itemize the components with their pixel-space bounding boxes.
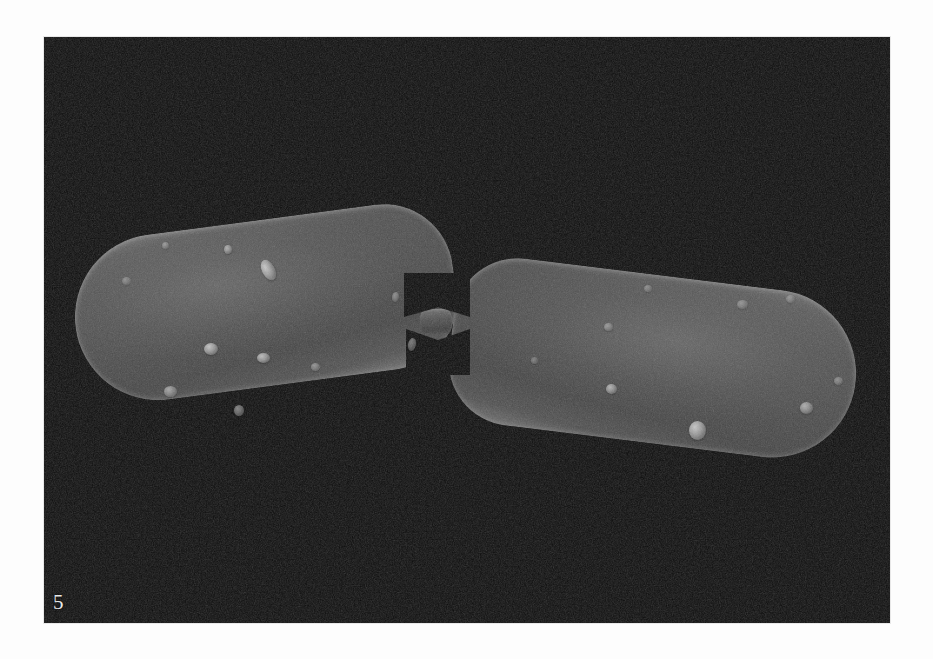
- surface-bleb: [122, 277, 131, 285]
- surface-bleb: [834, 377, 843, 385]
- surface-bleb: [531, 357, 538, 364]
- surface-bleb: [257, 353, 270, 363]
- surface-bleb: [234, 405, 244, 416]
- surface-bleb: [800, 402, 813, 414]
- surface-bleb: [204, 343, 218, 355]
- surface-bleb: [737, 300, 748, 309]
- plate-number-label: 5: [53, 592, 64, 613]
- surface-bleb: [606, 384, 617, 394]
- surface-bleb: [644, 285, 652, 292]
- surface-bleb: [786, 295, 795, 303]
- division-septum: [420, 309, 452, 336]
- surface-bleb: [689, 421, 706, 440]
- right-daughter-cell: [441, 251, 865, 467]
- electron-micrograph-panel: 5: [44, 37, 890, 623]
- figure-page: 5 Scanning electron micrograph of a rod-…: [0, 0, 933, 659]
- surface-bleb: [604, 323, 613, 331]
- surface-bleb: [224, 245, 232, 254]
- specimen-stage: [44, 37, 890, 623]
- surface-bleb: [162, 242, 169, 249]
- surface-bleb: [311, 363, 320, 371]
- surface-bleb: [164, 386, 177, 397]
